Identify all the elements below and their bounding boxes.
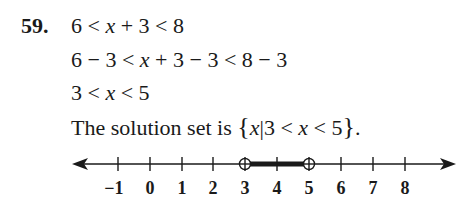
open-circle-3 xyxy=(240,157,251,171)
tick-label: 1 xyxy=(178,178,187,198)
tick-label: 4 xyxy=(273,178,282,198)
tick-labels: −1 0 1 2 3 4 5 6 7 8 xyxy=(104,178,409,198)
number-line: −1 0 1 2 3 4 5 6 7 8 xyxy=(0,0,464,208)
open-circle-5 xyxy=(304,157,315,171)
tick-label: 8 xyxy=(401,178,410,198)
tick-label: 5 xyxy=(305,178,314,198)
tick-label: 6 xyxy=(337,178,346,198)
tick-label: 0 xyxy=(146,178,155,198)
tick-label: 7 xyxy=(369,178,378,198)
tick-label: 3 xyxy=(241,178,250,198)
tick-label: 2 xyxy=(209,178,218,198)
tick-label: −1 xyxy=(104,178,123,198)
